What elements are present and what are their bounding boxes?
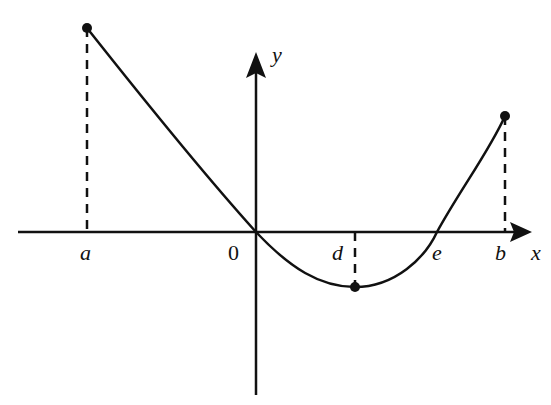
- label-x-axis: x: [531, 242, 541, 264]
- function-graph: a 0 d e b x y: [0, 0, 551, 405]
- label-e: e: [432, 242, 442, 264]
- left-endpoint-point: [82, 23, 92, 33]
- label-origin: 0: [228, 242, 239, 264]
- right-endpoint-point: [500, 111, 510, 121]
- label-d: d: [332, 242, 343, 264]
- label-a: a: [80, 242, 91, 264]
- function-curve: [87, 28, 505, 287]
- label-y-axis: y: [272, 44, 282, 66]
- label-b: b: [495, 242, 506, 264]
- minimum-point: [350, 282, 360, 292]
